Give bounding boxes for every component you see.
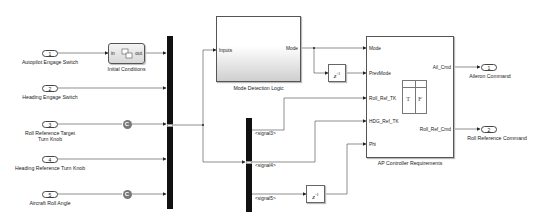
signal4-label: <signal4> — [255, 163, 276, 169]
goto-block-c[interactable]: C — [123, 190, 132, 199]
subsystem-icon — [121, 48, 133, 60]
table-false-column: F — [418, 95, 422, 103]
inport-5[interactable]: 5 — [42, 191, 58, 198]
table-true-column: T — [406, 95, 410, 103]
outport-2[interactable]: 2 — [481, 126, 497, 133]
mode-detection-logic-block[interactable]: Inputs Mode — [216, 16, 301, 82]
inport-3-label-line2: Turn Knob — [38, 136, 62, 142]
roll-ref-cmd-out-port-label: Roll_Ref_Cmd — [420, 127, 451, 133]
bus-selector-right[interactable] — [246, 118, 252, 212]
outport-1-label: Aileron Command — [469, 73, 511, 79]
inport-5-label: Aircraft Roll Angle — [29, 200, 70, 206]
unit-delay-exponent: -1 — [336, 71, 340, 76]
bus-port-highlight — [167, 124, 173, 127]
roll-ref-tk-in-port-label: Roll_Ref_TK — [369, 96, 396, 102]
signal3-label: <signal3> — [255, 131, 276, 137]
unit-delay-exponent: -1 — [315, 192, 319, 197]
unit-delay-block[interactable]: z-1 — [328, 64, 346, 82]
in-port-label: in — [111, 51, 115, 57]
simulink-canvas: 1 Autopilot Engage Switch 2 Heading Enga… — [0, 0, 538, 223]
inport-2[interactable]: 2 — [42, 85, 58, 92]
ap-controller-requirements-label: AP Controller Requirements — [378, 160, 443, 166]
bus-port-highlight — [246, 161, 252, 164]
mode-detection-logic-label: Mode Detection Logic — [233, 85, 283, 91]
bus-creator-left[interactable] — [167, 36, 173, 209]
initial-conditions-block[interactable]: in out — [108, 43, 145, 64]
mode-port-label: Mode — [286, 46, 298, 52]
phi-in-port-label: Phi — [369, 142, 376, 148]
inport-4-label: Heading Reference Turn Knob — [15, 165, 85, 171]
outport-1[interactable]: 1 — [481, 64, 497, 71]
inport-3[interactable]: 3 — [42, 121, 58, 128]
goto-block-c[interactable]: C — [123, 120, 132, 129]
outport-2-label: Roll Reference Command — [467, 135, 527, 141]
initial-conditions-label: Initial Conditions — [107, 66, 145, 72]
inport-4[interactable]: 4 — [42, 156, 58, 163]
prevmode-in-port-label: PrevMode — [369, 71, 391, 77]
hdg-ref-tk-in-port-label: HDG_Ref_TK — [369, 119, 399, 125]
unit-delay-block[interactable]: z-1 — [306, 185, 325, 203]
ap-controller-requirements-block[interactable]: Mode PrevMode Roll_Ref_TK HDG_Ref_TK Phi… — [366, 36, 454, 158]
signal5-label: <signal5> — [255, 196, 276, 202]
ail-cmd-out-port-label: Ail_Cmd — [433, 65, 451, 71]
inport-1-label: Autopilot Engage Switch — [22, 59, 78, 65]
out-port-label: out — [135, 51, 142, 57]
inputs-port-label: Inputs — [219, 48, 232, 54]
requirements-table-icon: T F — [402, 80, 427, 114]
inport-2-label: Heading Engage Switch — [22, 94, 77, 100]
mode-in-port-label: Mode — [369, 46, 381, 52]
inport-1[interactable]: 1 — [42, 50, 58, 57]
